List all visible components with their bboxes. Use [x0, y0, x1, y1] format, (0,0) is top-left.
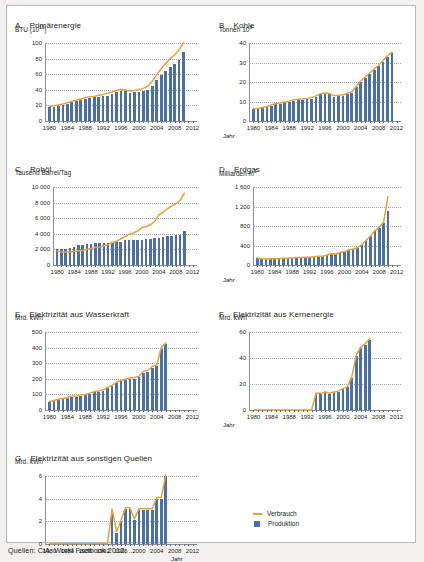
x-tick-mark [90, 121, 91, 123]
x-tick-label: 2012 [390, 414, 403, 420]
x-tick-label: 1980 [247, 414, 260, 420]
y-axis-unit-label: Mrd. kWh [15, 314, 43, 321]
x-tick-mark [74, 265, 75, 267]
x-tick-mark [392, 265, 393, 267]
x-tick-mark [267, 121, 268, 123]
x-tick-mark [155, 265, 156, 267]
y-tick-label: 800 [240, 223, 250, 229]
y-tick-label: 10 [239, 99, 246, 105]
line-swatch-icon [253, 513, 262, 515]
x-tick-mark [175, 410, 176, 412]
x-tick-mark [193, 265, 194, 267]
x-tick-label: 1992 [300, 125, 313, 131]
x-tick-label: 1996 [114, 125, 127, 131]
x-tick-mark [90, 410, 91, 412]
x-tick-mark [139, 410, 140, 412]
x-tick-mark [361, 410, 362, 412]
x-tick-mark [383, 121, 384, 123]
x-tick-mark [271, 121, 272, 123]
x-tick-mark [338, 410, 339, 412]
x-tick-mark [392, 121, 393, 123]
panel-title: Elektrizität aus sonstigen Quellen [30, 454, 152, 463]
x-tick-mark [352, 121, 353, 123]
x-tick-mark [356, 410, 357, 412]
x-tick-label: 1992 [300, 414, 313, 420]
x-tick-mark [307, 410, 308, 412]
plot-area: 0204060198019841988199219962000200420082… [249, 332, 401, 410]
x-tick-mark [325, 121, 326, 123]
legend-label-verbrauch: Verbrauch [267, 510, 297, 517]
x-tick-mark [325, 410, 326, 412]
x-tick-mark [285, 121, 286, 123]
x-tick-mark [61, 265, 62, 267]
x-axis-label: Jahr [223, 133, 235, 139]
y-tick-label: 2 000 [35, 246, 50, 252]
x-tick-mark [184, 121, 185, 123]
y-tick-label: 30 [239, 60, 246, 66]
x-tick-mark [188, 121, 189, 123]
x-tick-label: 2012 [186, 414, 199, 420]
x-tick-mark [316, 121, 317, 123]
x-tick-mark [303, 410, 304, 412]
x-tick-mark [276, 410, 277, 412]
x-tick-mark [94, 121, 95, 123]
x-tick-mark [142, 265, 143, 267]
x-tick-mark [133, 265, 134, 267]
x-tick-mark [397, 265, 398, 267]
x-tick-label: 1992 [96, 125, 109, 131]
x-tick-mark [67, 410, 68, 412]
x-tick-mark [99, 410, 100, 412]
x-tick-label: 1984 [265, 125, 278, 131]
x-tick-mark [166, 410, 167, 412]
x-tick-label: 2008 [373, 269, 386, 275]
panel-title: Elektrizität aus Kernenergie [233, 310, 334, 319]
y-tick-label: 8 000 [35, 200, 50, 206]
legend-label-produktion: Produktion [268, 520, 299, 527]
x-tick-mark [297, 265, 298, 267]
y-tick-label: 0 [243, 118, 246, 124]
x-tick-mark [374, 121, 375, 123]
x-tick-label: 1988 [283, 414, 296, 420]
x-tick-mark [294, 410, 295, 412]
x-tick-mark [303, 121, 304, 123]
x-tick-mark [157, 121, 158, 123]
x-tick-mark [321, 121, 322, 123]
legend-item-verbrauch: Verbrauch [253, 510, 299, 517]
x-tick-mark [104, 265, 105, 267]
consumption-line [249, 43, 401, 121]
x-tick-mark [130, 410, 131, 412]
x-tick-mark [166, 121, 167, 123]
x-tick-mark [312, 410, 313, 412]
x-tick-mark [108, 410, 109, 412]
x-tick-mark [370, 121, 371, 123]
x-tick-mark [280, 410, 281, 412]
x-tick-mark [262, 265, 263, 267]
x-tick-label: 2008 [169, 269, 182, 275]
y-tick-label: 0 [243, 407, 246, 413]
x-tick-mark [159, 265, 160, 267]
consumption-line [249, 332, 401, 410]
y-tick-label: 1 600 [235, 184, 250, 190]
x-tick-mark [161, 410, 162, 412]
x-tick-mark [54, 121, 55, 123]
x-tick-mark [175, 121, 176, 123]
consumption-line [45, 43, 197, 121]
plot-area: 02 0004 0006 0008 00010 0001980198419881… [53, 187, 197, 265]
x-tick-mark [397, 121, 398, 123]
x-tick-label: 1996 [320, 269, 333, 275]
x-tick-mark [343, 410, 344, 412]
x-tick-mark [193, 410, 194, 412]
x-tick-label: 1984 [61, 125, 74, 131]
y-tick-label: 4 000 [35, 231, 50, 237]
bar-swatch-icon [254, 521, 260, 527]
x-tick-mark [329, 121, 330, 123]
x-tick-mark [343, 121, 344, 123]
x-tick-label: 2008 [372, 414, 385, 420]
x-tick-mark [374, 410, 375, 412]
x-tick-label: 1980 [43, 414, 56, 420]
x-tick-mark [161, 121, 162, 123]
x-tick-mark [329, 410, 330, 412]
x-tick-mark [112, 265, 113, 267]
x-tick-mark [49, 410, 50, 412]
y-tick-label: 10 000 [32, 184, 50, 190]
